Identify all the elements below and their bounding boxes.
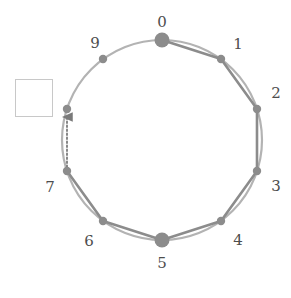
node-label-9: 9 (90, 36, 100, 51)
graph-node-2[interactable] (253, 105, 261, 113)
graph-node-3[interactable] (253, 167, 261, 175)
node-label-2: 2 (271, 86, 281, 101)
graph-node-7[interactable] (63, 167, 71, 175)
graph-node-6[interactable] (99, 217, 107, 225)
node-label-7: 7 (45, 180, 55, 195)
node-label-3: 3 (271, 179, 281, 194)
node-label-0: 0 (157, 15, 167, 30)
graph-node-4[interactable] (217, 217, 225, 225)
graph-edge-5-6 (103, 221, 162, 240)
node-label-5: 5 (157, 256, 167, 271)
graph-edge-3-4 (221, 171, 257, 221)
circle-arc (62, 40, 262, 240)
node-label-6: 6 (84, 234, 94, 249)
graph-edge-4-5 (162, 221, 221, 240)
graph-edge-6-7 (67, 171, 103, 221)
graph-node-8[interactable] (63, 105, 71, 113)
graph-edge-0-1 (162, 40, 221, 59)
polygon-edge-layer (67, 40, 257, 240)
node-layer (63, 33, 261, 248)
circle-arc-layer (62, 40, 262, 240)
graph-node-5[interactable] (155, 233, 170, 248)
graph-edge-1-2 (221, 59, 257, 109)
empty-box-annotation[interactable] (15, 79, 53, 117)
graph-node-1[interactable] (217, 55, 225, 63)
graph-node-9[interactable] (99, 55, 107, 63)
diagram-canvas: 012345679 (0, 0, 291, 298)
cycle-graph-svg (0, 0, 291, 298)
node-label-4: 4 (233, 233, 243, 248)
graph-node-0[interactable] (155, 33, 170, 48)
node-label-1: 1 (233, 37, 243, 52)
